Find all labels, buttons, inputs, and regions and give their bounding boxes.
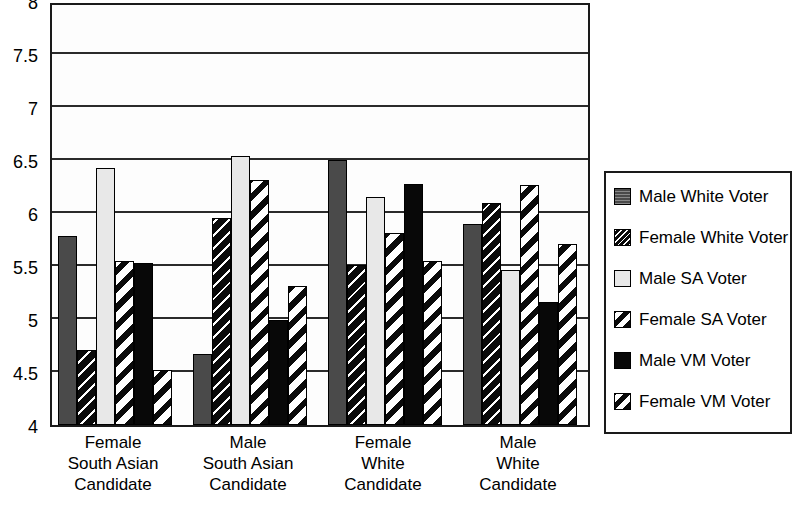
- legend-item-label: Male SA Voter: [639, 270, 747, 287]
- legend-item-msa[interactable]: Male SA Voter: [614, 267, 747, 289]
- bar-fvm-group-3[interactable]: [423, 261, 442, 425]
- bar-msa-group-4[interactable]: [501, 270, 520, 425]
- x-axis-label-line: White: [308, 453, 458, 474]
- y-axis-tick-label: 5.5: [13, 259, 38, 277]
- x-axis-label-line: Male: [443, 432, 593, 453]
- bar-mvm-group-1[interactable]: [134, 263, 153, 425]
- bar-msa-group-3[interactable]: [366, 197, 385, 425]
- legend-item-label: Female SA Voter: [639, 311, 767, 328]
- bar-fvm-group-2[interactable]: [288, 286, 307, 425]
- y-axis-tick-label: 6.5: [13, 153, 38, 171]
- legend-swatch-icon-mvm: [614, 352, 631, 369]
- bar-group: [52, 5, 187, 425]
- bar-fsa-group-1[interactable]: [115, 261, 134, 425]
- legend-item-label: Female VM Voter: [639, 393, 770, 410]
- bar-mwv-group-1[interactable]: [58, 236, 77, 425]
- bar-group: [322, 5, 457, 425]
- bar-mvm-group-4[interactable]: [539, 302, 558, 425]
- bar-group: [457, 5, 592, 425]
- bar-fwv-group-3[interactable]: [347, 265, 366, 425]
- bar-fvm-group-4[interactable]: [558, 244, 577, 425]
- bar-fwv-group-2[interactable]: [212, 218, 231, 425]
- y-axis-tick-label: 7: [28, 100, 38, 118]
- bar-series-container: [52, 5, 588, 425]
- x-axis-label-line: White: [443, 453, 593, 474]
- x-axis-label-line: Female: [38, 432, 188, 453]
- y-axis-tick-label: 5: [28, 312, 38, 330]
- x-axis-label-line: Candidate: [173, 474, 323, 495]
- legend-swatch-icon-msa: [614, 270, 631, 287]
- bar-fsa-group-3[interactable]: [385, 233, 404, 425]
- x-axis-label-line: Candidate: [38, 474, 188, 495]
- x-axis-category-labels: FemaleSouth AsianCandidateMaleSouth Asia…: [50, 432, 590, 505]
- x-axis-label-group-4: MaleWhiteCandidate: [443, 432, 593, 495]
- bar-fsa-group-2[interactable]: [250, 180, 269, 425]
- bar-mwv-group-4[interactable]: [463, 224, 482, 425]
- legend-swatch-icon-fvm: [614, 393, 631, 410]
- legend-item-label: Male White Voter: [639, 188, 768, 205]
- x-axis-label-line: Male: [173, 432, 323, 453]
- bar-mvm-group-2[interactable]: [269, 320, 288, 425]
- y-axis-tick-label: 6: [28, 206, 38, 224]
- legend: Male White VoterFemale White VoterMale S…: [604, 171, 792, 434]
- legend-item-fsa[interactable]: Female SA Voter: [614, 308, 767, 330]
- legend-item-fvm[interactable]: Female VM Voter: [614, 390, 770, 412]
- x-axis-label-group-3: FemaleWhiteCandidate: [308, 432, 458, 495]
- bar-fsa-group-4[interactable]: [520, 185, 539, 425]
- x-axis-label-line: Female: [308, 432, 458, 453]
- bar-group: [187, 5, 322, 425]
- y-axis: 87.576.565.554.54: [0, 0, 44, 432]
- bar-fwv-group-1[interactable]: [77, 350, 96, 425]
- bar-fwv-group-4[interactable]: [482, 203, 501, 425]
- legend-swatch-icon-fsa: [614, 311, 631, 328]
- y-axis-tick-label: 8: [28, 0, 38, 12]
- x-axis-label-line: South Asian: [38, 453, 188, 474]
- x-axis-label-line: South Asian: [173, 453, 323, 474]
- legend-item-label: Female White Voter: [639, 229, 788, 246]
- bar-fvm-group-1[interactable]: [153, 370, 172, 425]
- y-axis-tick-label: 4: [28, 418, 38, 436]
- x-axis-label-group-2: MaleSouth AsianCandidate: [173, 432, 323, 495]
- legend-item-mvm[interactable]: Male VM Voter: [614, 349, 751, 371]
- chart-figure: 87.576.565.554.54 FemaleSouth AsianCandi…: [0, 0, 798, 505]
- x-axis-label-line: Candidate: [443, 474, 593, 495]
- x-axis-label-group-1: FemaleSouth AsianCandidate: [38, 432, 188, 495]
- legend-item-label: Male VM Voter: [639, 352, 751, 369]
- bar-mwv-group-3[interactable]: [328, 160, 347, 425]
- y-axis-tick-label: 7.5: [13, 47, 38, 65]
- x-axis-label-line: Candidate: [308, 474, 458, 495]
- y-axis-tick-label: 4.5: [13, 365, 38, 383]
- legend-item-mwv[interactable]: Male White Voter: [614, 185, 768, 207]
- legend-swatch-icon-mwv: [614, 188, 631, 205]
- bar-mwv-group-2[interactable]: [193, 354, 212, 425]
- bar-msa-group-2[interactable]: [231, 156, 250, 425]
- bar-msa-group-1[interactable]: [96, 168, 115, 425]
- legend-item-fwv[interactable]: Female White Voter: [614, 226, 788, 248]
- bar-mvm-group-3[interactable]: [404, 184, 423, 425]
- legend-swatch-icon-fwv: [614, 229, 631, 246]
- plot-area: [50, 3, 590, 427]
